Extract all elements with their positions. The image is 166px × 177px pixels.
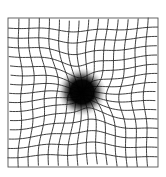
grid-line <box>8 27 157 32</box>
amsler-grid-figure <box>0 0 166 177</box>
grid-line <box>18 19 22 167</box>
grid-line <box>8 142 157 148</box>
grid-line <box>8 46 156 55</box>
central-scotoma-blob <box>58 68 106 116</box>
grid-line <box>8 36 157 43</box>
grid-line <box>8 153 157 158</box>
amsler-grid <box>0 0 166 177</box>
